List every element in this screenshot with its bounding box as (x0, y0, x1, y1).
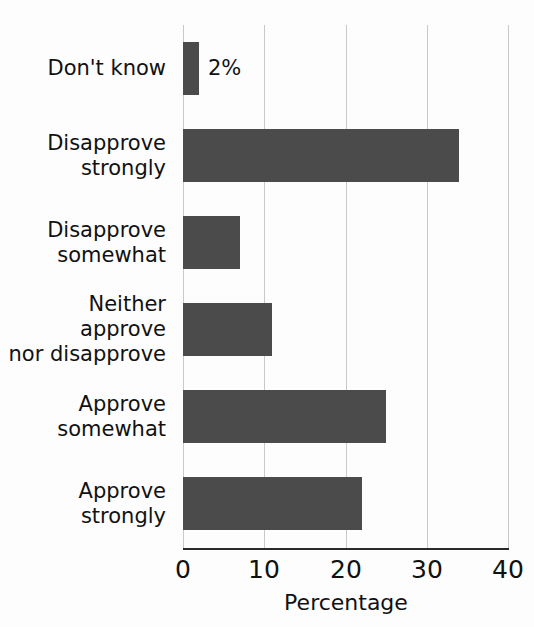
category-label-disapprove-strongly: Disapprove strongly (0, 112, 175, 199)
plot-area: 2% (183, 25, 508, 548)
bar-row (183, 373, 508, 460)
bar-row (183, 286, 508, 373)
category-label-line2: nor disapprove (9, 342, 166, 367)
category-label-line2: somewhat (57, 243, 166, 268)
bar-neither (183, 303, 272, 356)
category-label-line1: Don't know (47, 56, 166, 81)
bar-disapprove-strongly (183, 129, 459, 182)
category-label-dont-know: Don't know (0, 25, 175, 112)
bar-chart: 2% Don't know Disapprove (0, 0, 534, 627)
bar-disapprove-somewhat (183, 216, 240, 269)
category-label-line2: strongly (81, 156, 166, 181)
category-label-line2: strongly (81, 504, 166, 529)
x-axis-tick-labels: 0 10 20 30 40 (0, 554, 534, 588)
gridline-40 (508, 25, 509, 548)
x-tick-40: 40 (492, 554, 524, 586)
bar-row: 2% (183, 25, 508, 112)
x-tick-0: 0 (175, 554, 191, 586)
bar-value-label: 2% (199, 42, 241, 95)
bar-dont-know (183, 42, 199, 95)
x-tick-10: 10 (248, 554, 280, 586)
x-tick-30: 30 (411, 554, 443, 586)
x-tick-20: 20 (330, 554, 362, 586)
category-label-approve-somewhat: Approve somewhat (0, 373, 175, 460)
bar-approve-somewhat (183, 390, 386, 443)
bar-rows: 2% (183, 25, 508, 548)
bar-approve-strongly (183, 477, 362, 530)
x-axis-line (183, 548, 509, 550)
bar-row (183, 199, 508, 286)
category-label-line1: Disapprove (47, 131, 166, 156)
category-label-line1: Approve (79, 392, 166, 417)
category-label-line1: Disapprove (47, 218, 166, 243)
category-label-line1: Approve (79, 479, 166, 504)
category-axis-labels: Don't know Disapprove strongly Disapprov… (0, 25, 175, 548)
category-label-approve-strongly: Approve strongly (0, 460, 175, 547)
x-axis-title: Percentage (183, 590, 509, 615)
bar-row (183, 460, 508, 547)
bar-row (183, 112, 508, 199)
category-label-line1: Neither approve (0, 292, 166, 342)
category-label-neither: Neither approve nor disapprove (0, 286, 175, 373)
category-label-disapprove-somewhat: Disapprove somewhat (0, 199, 175, 286)
category-label-line2: somewhat (57, 417, 166, 442)
